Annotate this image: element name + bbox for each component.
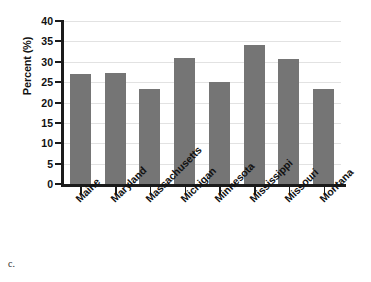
gridline: [63, 41, 341, 42]
y-tick-label: 30: [31, 57, 53, 67]
y-tick-label-wrap: 20: [26, 98, 53, 108]
y-tick-label: 40: [31, 16, 53, 26]
y-tick-label: 0: [31, 179, 53, 189]
y-tick-label-wrap: 0: [26, 179, 53, 189]
y-tick-mark: [55, 142, 62, 144]
y-tick-label: 10: [31, 138, 53, 148]
y-tick-mark: [55, 61, 62, 63]
y-tick-mark: [55, 20, 62, 22]
bar-chart-figure: Percent (%) 0510152025303540 MaineMaryla…: [0, 0, 371, 282]
gridline: [63, 21, 341, 22]
y-tick-label: 25: [31, 77, 53, 87]
y-tick-mark: [55, 183, 62, 185]
figure-caption: c.: [8, 258, 15, 269]
y-tick-mark: [55, 40, 62, 42]
y-tick-label-wrap: 40: [26, 16, 53, 26]
bar-maryland: [105, 73, 126, 184]
y-tick-mark: [55, 102, 62, 104]
y-tick-label: 20: [31, 98, 53, 108]
y-tick-label-wrap: 5: [26, 159, 53, 169]
y-tick-label-wrap: 35: [26, 36, 53, 46]
y-tick-label-wrap: 30: [26, 57, 53, 67]
y-tick-label-wrap: 25: [26, 77, 53, 87]
y-tick-label: 15: [31, 118, 53, 128]
bar-maine: [70, 74, 91, 184]
y-tick-mark: [55, 81, 62, 83]
y-tick-label: 35: [31, 36, 53, 46]
y-tick-label-wrap: 10: [26, 138, 53, 148]
y-tick-mark: [55, 163, 62, 165]
y-tick-mark: [55, 122, 62, 124]
y-tick-label: 5: [31, 159, 53, 169]
y-tick-label-wrap: 15: [26, 118, 53, 128]
